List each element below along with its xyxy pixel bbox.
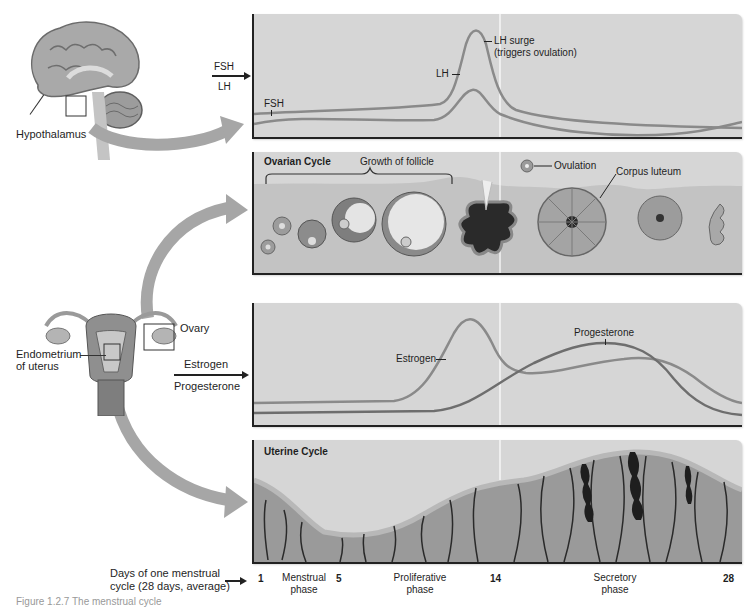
- fsh-curve-label: FSH: [264, 98, 284, 110]
- endometrium-leader-line: [80, 355, 106, 356]
- ovarian-hormone-arrow: [174, 374, 244, 376]
- endometrium-label: Endometrium of uterus: [16, 348, 81, 372]
- secretory-phase-line2: phase: [580, 584, 650, 596]
- corpus-luteum-label: Corpus luteum: [616, 166, 681, 178]
- growth-of-follicle-label: Growth of follicle: [360, 156, 434, 168]
- gonadotropin-panel: FSH LH LH surge (triggers ovulation): [252, 14, 742, 139]
- lh-surge-tick: [484, 41, 492, 42]
- estrogen-curve: [254, 319, 742, 403]
- progesterone-tick: [605, 339, 606, 345]
- day-28: 28: [723, 573, 734, 584]
- progesterone-curve-label: Progesterone: [574, 327, 634, 339]
- arrow-head-icon: [240, 577, 247, 585]
- day-1: 1: [258, 573, 264, 584]
- ovarian-hormone-chart: [254, 303, 742, 425]
- day-14: 14: [490, 573, 501, 584]
- progesterone-arrow-label: Progesterone: [174, 380, 240, 392]
- timeline-axis-label: Days of one menstrual cycle (28 days, av…: [110, 567, 230, 593]
- flow-arrows: [0, 0, 260, 560]
- endometrium-illustration: [254, 440, 742, 562]
- ovary-label: Ovary: [180, 322, 209, 334]
- fsh-curve: [254, 90, 742, 135]
- gonadotropin-chart: [254, 14, 742, 137]
- arrow-head-icon: [242, 371, 249, 379]
- estrogen-tick: [436, 359, 446, 360]
- secretory-phase-label: Secretory phase: [580, 572, 650, 596]
- menstrual-phase-line2: phase: [274, 584, 334, 596]
- lh-tick: [452, 74, 460, 75]
- day-5: 5: [336, 573, 342, 584]
- ovarian-cycle-panel: Ovarian Cycle Growth of follicle Ovulati…: [252, 152, 742, 275]
- lh-curve-label: LH: [436, 68, 449, 80]
- ovarian-hormone-panel: Estrogen Progesterone: [252, 303, 742, 427]
- proliferative-phase-line1: Proliferative: [385, 572, 455, 584]
- proliferative-phase-label: Proliferative phase: [385, 572, 455, 596]
- ovarian-cycle-title: Ovarian Cycle: [264, 156, 331, 168]
- lh-surge-line2: (triggers ovulation): [494, 47, 577, 59]
- endometrium-label-line2: of uterus: [16, 360, 81, 372]
- timeline-axis-label-line2: cycle (28 days, average): [110, 580, 230, 593]
- uterine-cycle-panel: Uterine Cycle: [252, 440, 742, 564]
- uterine-cycle-title: Uterine Cycle: [264, 446, 328, 458]
- secretory-phase-line1: Secretory: [580, 572, 650, 584]
- estrogen-arrow-label: Estrogen: [184, 358, 228, 370]
- lh-surge-label: LH surge (triggers ovulation): [494, 35, 577, 59]
- figure-caption: Figure 1.2.7 The menstrual cycle: [16, 596, 161, 607]
- timeline-axis-label-line1: Days of one menstrual: [110, 567, 230, 580]
- estrogen-curve-label: Estrogen: [396, 353, 436, 365]
- fsh-tick: [271, 110, 272, 116]
- lh-surge-line1: LH surge: [494, 35, 577, 47]
- endometrium-label-line1: Endometrium: [16, 348, 81, 360]
- menstrual-phase-label: Menstrual phase: [274, 572, 334, 596]
- menstrual-phase-line1: Menstrual: [274, 572, 334, 584]
- timeline-arrow: [225, 580, 241, 582]
- ovulation-label: Ovulation: [554, 160, 596, 172]
- proliferative-phase-line2: phase: [385, 584, 455, 596]
